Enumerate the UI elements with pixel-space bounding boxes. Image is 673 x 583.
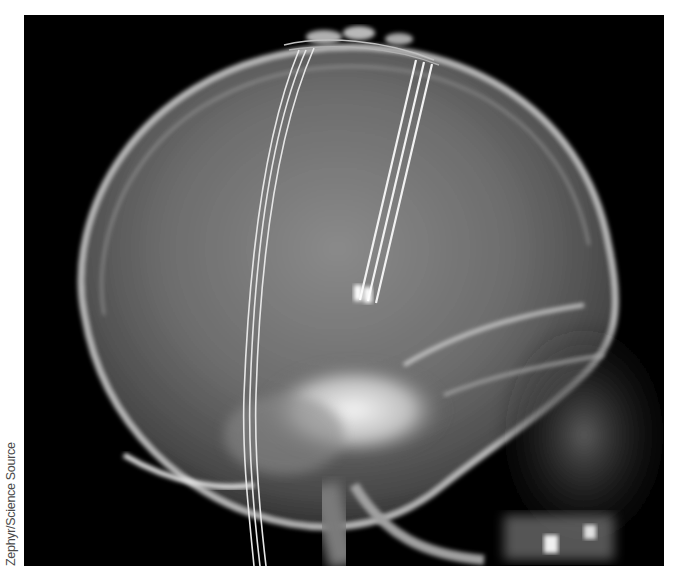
xray-image [24, 15, 664, 566]
photo-credit: Zephyr/Science Source [2, 442, 20, 566]
skull-xray-illustration [24, 15, 664, 566]
